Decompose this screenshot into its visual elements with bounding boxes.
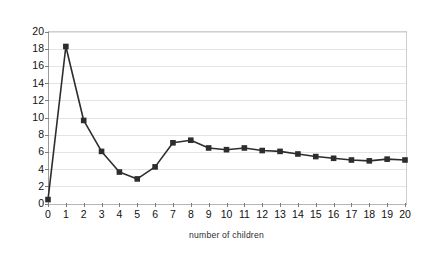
data-point-marker: [188, 137, 194, 143]
data-point-marker: [367, 158, 373, 164]
x-tick-mark: [280, 203, 281, 207]
x-tick-mark: [137, 203, 138, 207]
data-point-marker: [331, 155, 337, 161]
y-tick-label: 10: [22, 112, 44, 122]
x-tick-mark: [262, 203, 263, 207]
y-tick-label: 14: [22, 78, 44, 88]
y-tick-label: 6: [22, 146, 44, 156]
data-point-marker: [45, 197, 51, 203]
x-tick-label: 20: [393, 208, 417, 221]
data-point-marker: [134, 176, 140, 182]
data-point-marker: [295, 151, 301, 157]
y-axis-tick-labels: 02468101214161820: [22, 24, 44, 210]
y-tick-label: 16: [22, 60, 44, 70]
y-tick-label: 12: [22, 95, 44, 105]
x-tick-mark: [119, 203, 120, 207]
y-tick-label: 18: [22, 43, 44, 53]
data-point-marker: [152, 164, 158, 170]
x-tick-mark: [191, 203, 192, 207]
x-tick-mark: [244, 203, 245, 207]
data-point-marker: [206, 145, 212, 151]
x-tick-mark: [173, 203, 174, 207]
data-point-marker: [277, 149, 283, 155]
data-point-marker: [313, 154, 319, 160]
data-point-marker: [63, 44, 69, 50]
x-tick-mark: [48, 203, 49, 207]
x-tick-mark: [84, 203, 85, 207]
x-axis-tick-labels: 01234567891011121314151617181920: [48, 208, 405, 222]
y-tick-label: 2: [22, 181, 44, 191]
x-axis-tick-marks: [48, 203, 405, 207]
x-tick-mark: [66, 203, 67, 207]
chart-figure: relative time LOUDS/pointer 024681012141…: [0, 0, 439, 264]
data-point-marker: [117, 169, 123, 175]
data-point-marker: [170, 140, 176, 146]
data-point-marker: [259, 148, 265, 154]
x-tick-mark: [351, 203, 352, 207]
data-point-marker: [384, 156, 390, 162]
x-axis-title: number of children: [48, 230, 405, 240]
y-tick-label: 0: [22, 198, 44, 208]
y-tick-label: 20: [22, 26, 44, 36]
data-point-marker: [81, 118, 87, 124]
x-tick-mark: [155, 203, 156, 207]
x-tick-mark: [405, 203, 406, 207]
x-tick-mark: [209, 203, 210, 207]
x-tick-mark: [387, 203, 388, 207]
x-tick-mark: [298, 203, 299, 207]
y-tick-label: 4: [22, 164, 44, 174]
data-point-marker: [99, 149, 105, 155]
x-tick-mark: [316, 203, 317, 207]
data-point-marker: [224, 147, 230, 153]
x-tick-mark: [102, 203, 103, 207]
x-tick-mark: [334, 203, 335, 207]
data-point-marker: [242, 145, 248, 151]
data-point-marker: [402, 157, 408, 163]
x-tick-mark: [369, 203, 370, 207]
series-polyline: [48, 46, 405, 199]
x-tick-mark: [227, 203, 228, 207]
data-point-marker: [349, 157, 355, 163]
data-series-line: [48, 31, 408, 203]
y-tick-label: 8: [22, 129, 44, 139]
